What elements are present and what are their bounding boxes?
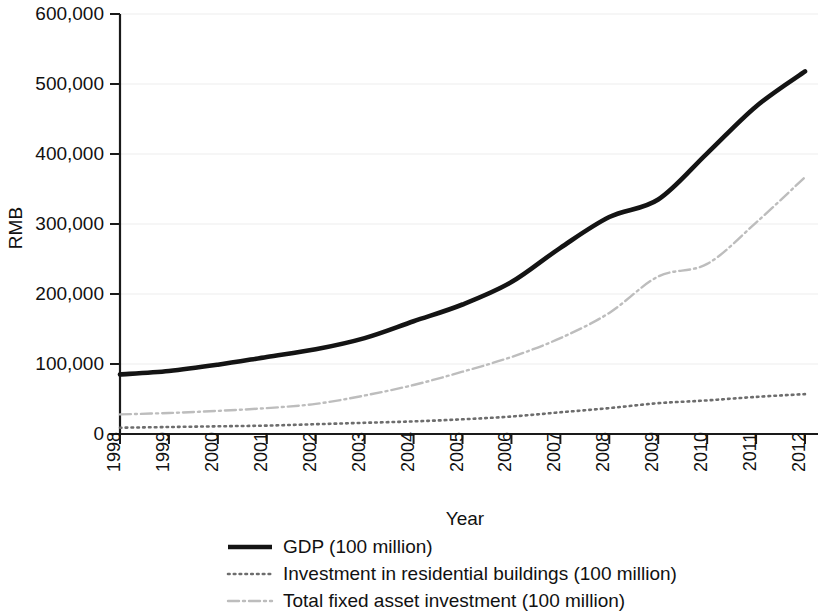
line-chart: 0100,000200,000300,000400,000500,000600,…: [0, 0, 824, 614]
y-tick-label: 100,000: [35, 353, 104, 374]
x-tick-label: 2003: [349, 432, 369, 472]
x-tick-label: 2001: [251, 432, 271, 472]
x-tick-label: 2011: [740, 433, 760, 472]
y-tick-label: 200,000: [35, 283, 104, 304]
y-axis: 0100,000200,000300,000400,000500,000600,…: [5, 3, 120, 444]
x-tick-label: 2009: [642, 432, 662, 472]
x-tick-label: 2010: [691, 432, 711, 472]
legend-label-residential: Investment in residential buildings (100…: [283, 563, 677, 584]
y-tick-label: 400,000: [35, 143, 104, 164]
x-axis: 1998199920002001200220032004200520062007…: [104, 432, 818, 529]
x-tick-label: 2000: [202, 432, 222, 472]
y-tick-label: 500,000: [35, 73, 104, 94]
gridlines: [120, 14, 818, 364]
y-tick-label: 0: [93, 423, 104, 444]
legend-item-fixed-asset: Total fixed asset investment (100 millio…: [228, 590, 625, 611]
x-tick-label: 2005: [447, 432, 467, 472]
legend-label-gdp: GDP (100 million): [283, 536, 433, 557]
series-line-investment-in-residential-buildings: [120, 394, 805, 428]
legend-item-gdp: GDP (100 million): [228, 536, 433, 557]
chart-container: 0100,000200,000300,000400,000500,000600,…: [0, 0, 824, 614]
x-axis-title: Year: [446, 508, 485, 529]
legend: GDP (100 million) Investment in resident…: [228, 536, 677, 611]
series-line-total-fixed-asset-investment: [120, 177, 805, 414]
x-tick-label: 2008: [593, 432, 613, 472]
x-tick-label: 2012: [789, 432, 809, 472]
x-tick-label: 1998: [104, 432, 124, 472]
y-tick-label: 600,000: [35, 3, 104, 24]
x-tick-label: 1999: [153, 432, 173, 472]
plot-series: [120, 71, 805, 427]
y-axis-title: RMB: [5, 207, 26, 249]
series-line-gdp: [120, 71, 805, 374]
legend-label-fixed-asset: Total fixed asset investment (100 millio…: [283, 590, 625, 611]
x-tick-label: 2007: [544, 432, 564, 472]
x-tick-label: 2004: [398, 432, 418, 472]
x-tick-label: 2006: [495, 432, 515, 472]
y-tick-label: 300,000: [35, 213, 104, 234]
x-tick-label: 2002: [300, 432, 320, 472]
legend-item-residential: Investment in residential buildings (100…: [228, 563, 677, 584]
